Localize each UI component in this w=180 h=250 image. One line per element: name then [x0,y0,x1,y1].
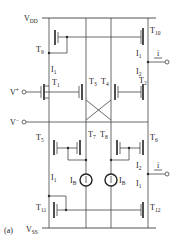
i2-label-right-top: I2 [136,67,142,77]
transistor-t9 [48,30,68,54]
t8-label: T8 [100,130,108,140]
vminus-terminal[interactable] [22,120,26,124]
i2-label-right-bottom: I2 [136,161,142,171]
vdd-label: VDD [24,14,38,24]
output-terminal[interactable] [165,60,169,64]
transistor-t7 [77,140,80,155]
t6-label: T6 [150,133,158,143]
output-current-label-bottom: i [157,161,160,170]
t7-label: T7 [88,130,96,140]
vplus-terminal[interactable] [22,90,26,94]
t9-label: T9 [36,45,44,55]
t1-label: T1 [52,78,60,88]
i1-label-right-top: I1 [136,49,142,59]
transistor-t10 [141,28,143,45]
t11-label: T11 [36,203,46,213]
transistor-t5 [54,140,57,155]
t12-label: T12 [150,203,161,213]
circuit-schematic: VDD VSS (a) V+ V− i i T9 T10 T1 T2 T3 T4… [0,0,180,250]
t4-label: T4 [101,77,109,87]
transistor-t3 [79,84,82,100]
transistor-t8 [117,140,120,155]
ib-label-left: IB [70,176,77,186]
vplus-label: V+ [10,87,19,97]
transistor-t4 [115,84,118,100]
transistor-t11 [54,202,57,218]
transistor-t12 [141,202,143,218]
t3-label: T3 [89,77,97,87]
transistor-t2 [141,84,143,100]
i1-label-right-bottom: I1 [136,179,142,189]
t5-label: T5 [36,133,44,143]
i1-label-bottom: I1 [51,173,57,183]
t10-label: T10 [150,26,161,36]
output-current-label-top: i [157,49,160,58]
i1-label-top: I1 [51,65,57,75]
output-terminal-bottom[interactable] [165,172,169,176]
transistor-t6 [140,140,143,155]
t2-label: T2 [139,76,147,86]
figure-label: (a) [4,226,13,235]
vss-label: VSS [26,225,38,235]
vminus-label: V− [10,117,19,127]
ib-label-right: IB [119,176,126,186]
